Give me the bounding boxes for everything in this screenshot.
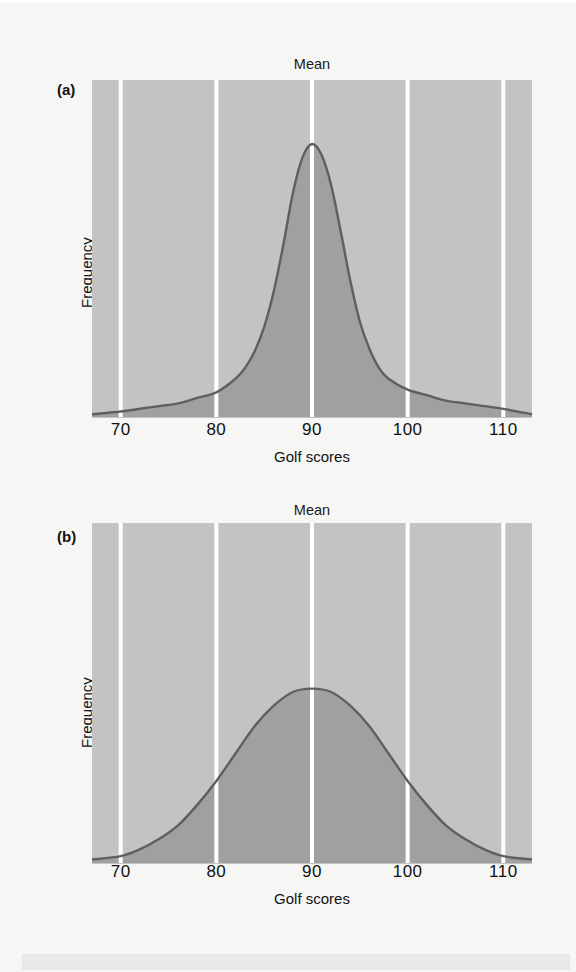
gridline-110 [501,523,505,863]
chart-panel-b: Mean (b) Frequency 708090100110 Golf sco… [0,486,576,972]
x-tick-label-110: 110 [463,420,543,440]
panel-tag-b-text: (b) [57,528,76,545]
x-tick-label-80: 80 [176,862,256,882]
x-tick-label-70: 70 [81,862,161,882]
plot-area-b [92,521,534,866]
gridline-100 [406,80,410,417]
x-tick-label-100: 100 [368,862,448,882]
x-axis-label-a: Golf scores [250,448,374,465]
panel-tag-b: (b) [57,528,76,545]
x-tick-label-80: 80 [176,420,256,440]
gridline-100 [406,523,410,863]
x-tick-label-90: 90 [272,862,352,882]
mean-label-b: Mean [250,502,374,518]
figure-page: Mean (a) Frequency 708090100110 Golf sco… [0,0,576,972]
panel-tag-a: (a) [57,81,75,98]
x-tick-label-90: 90 [272,420,352,440]
x-tick-label-100: 100 [368,420,448,440]
plot-area-a [92,78,534,420]
chart-panel-a: Mean (a) Frequency 708090100110 Golf sco… [0,0,576,486]
page-bottom-bar [22,954,570,970]
x-tick-label-110: 110 [463,862,543,882]
gridline-70 [119,523,123,863]
x-axis-label-b: Golf scores [250,890,374,907]
gridline-80 [214,80,218,417]
gridline-90 [310,80,314,417]
gridline-70 [119,80,123,417]
x-tick-label-70: 70 [81,420,161,440]
panel-tag-a-text: (a) [57,81,75,98]
gridline-80 [214,523,218,863]
gridline-110 [501,80,505,417]
mean-label-a: Mean [250,56,374,72]
gridline-90 [310,523,314,863]
